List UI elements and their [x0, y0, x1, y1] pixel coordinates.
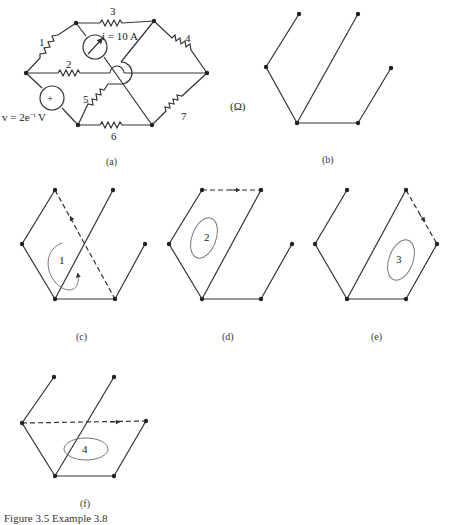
unit-label: (Ω): [230, 100, 246, 113]
loop-graph-e: [315, 190, 437, 299]
panel-e-label: (e): [371, 331, 382, 343]
voltage-plus-sign: +: [47, 92, 53, 104]
panel-a-label: (a): [106, 156, 117, 168]
loop-graph-f: [22, 377, 146, 476]
panel-c-label: (c): [76, 331, 87, 343]
panel-d-label: (d): [222, 331, 234, 343]
voltage-source-label: v = 2e−t V: [2, 111, 46, 123]
resistor-1-label: 1: [39, 36, 45, 48]
figure-caption: Figure 3.5 Example 3.8: [4, 512, 108, 524]
loop-4-label: 4: [82, 443, 88, 455]
panel-f-label: (f): [80, 498, 90, 510]
loop-1-label: 1: [59, 254, 65, 266]
loop-graph-c: [22, 190, 145, 299]
resistor-4-label: 4: [185, 32, 191, 44]
resistor-6-label: 6: [111, 130, 117, 142]
figure-canvas: 3 1 4 2 5 6 7 i = 10 A + v = 2e−t V (a) …: [0, 0, 454, 525]
resistor-3-label: 3: [110, 5, 116, 17]
resistor-7-label: 7: [181, 110, 187, 122]
tree-nodes: [264, 12, 393, 125]
loop-3-label: 3: [396, 253, 402, 265]
current-source-label: i = 10 A: [102, 30, 138, 42]
loop-graph-d: [169, 190, 292, 299]
panel-b-label: (b): [322, 154, 334, 166]
resistor-5-label: 5: [83, 93, 89, 105]
resistor-2-label: 2: [66, 58, 72, 70]
tree-graph: [266, 14, 391, 123]
loop-2-label: 2: [204, 231, 210, 243]
